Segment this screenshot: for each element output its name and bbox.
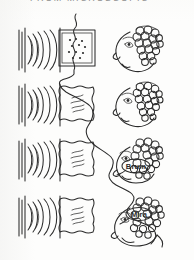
diagram-row: Brum xyxy=(0,135,194,187)
signal-panel xyxy=(57,196,99,236)
scanned-page: FROM MICROSCOPIC xyxy=(0,0,194,260)
page-title: FROM MICROSCOPIC xyxy=(30,0,149,3)
listener-head xyxy=(108,22,168,78)
signal-panel xyxy=(57,139,99,179)
speech-balloon-text: Brum xyxy=(126,162,147,171)
listener-head: Brum xyxy=(104,135,170,187)
diagram-row xyxy=(0,80,194,130)
listener-head xyxy=(108,80,168,130)
signal-panel xyxy=(57,84,99,124)
signal-panel xyxy=(57,28,99,70)
diagram-row xyxy=(0,22,194,78)
diagram-row: Mira xyxy=(0,192,194,250)
speech-balloon-text: Mira xyxy=(131,210,148,219)
page-title-strip: FROM MICROSCOPIC xyxy=(30,0,180,7)
listener-head: Mira xyxy=(104,192,174,250)
